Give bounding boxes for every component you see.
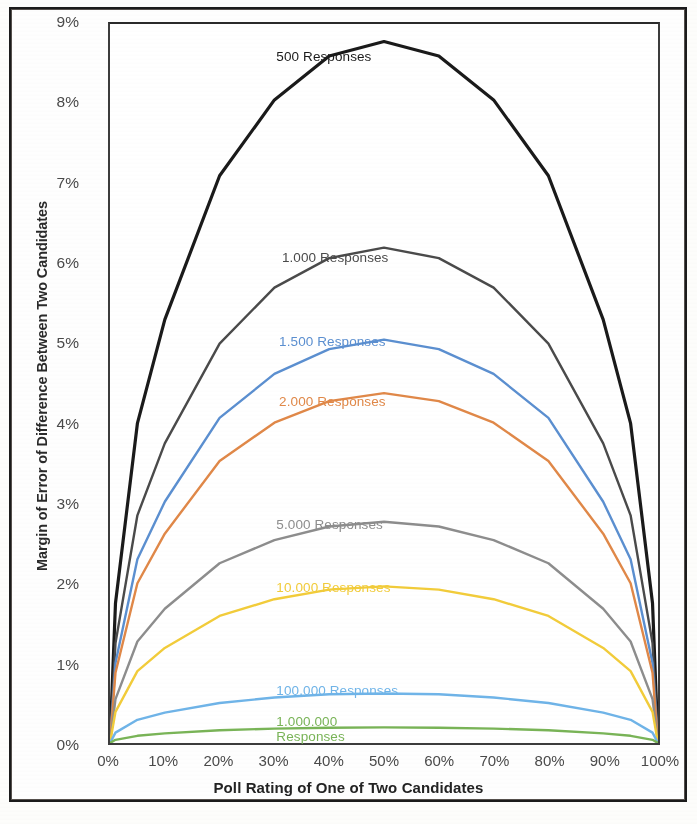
y-axis-tick-label: 1% [33, 656, 79, 674]
series-label: 10.000 Responses [276, 580, 390, 595]
x-axis-tick-label: 0% [80, 752, 136, 769]
series-label: 500 Responses [276, 49, 371, 64]
y-axis-tick-label: 0% [33, 736, 79, 754]
series-line [110, 727, 658, 743]
series-line [110, 248, 658, 743]
y-axis-tick-label: 9% [33, 13, 79, 31]
scanned-page: Margin of Error of Difference Between Tw… [0, 0, 697, 824]
x-axis-tick-label: 70% [466, 752, 522, 769]
x-axis-tick-label: 50% [356, 752, 412, 769]
series-lines [110, 24, 658, 743]
x-axis-title: Poll Rating of One of Two Candidates [0, 779, 697, 796]
y-axis-tick-label: 5% [33, 334, 79, 352]
series-line [110, 586, 658, 743]
series-label: 1.000 Responses [282, 250, 389, 265]
x-axis-tick-label: 100% [632, 752, 688, 769]
x-axis-tick-label: 80% [522, 752, 578, 769]
series-label: 100.000 Responses [276, 683, 398, 698]
series-label: 1.000.000Responses [276, 714, 344, 744]
series-label: 5.000 Responses [276, 517, 383, 532]
x-axis-tick-label: 10% [135, 752, 191, 769]
y-axis-tick-label: 6% [33, 254, 79, 272]
y-axis-tick-label: 2% [33, 575, 79, 593]
x-axis-tick-label: 90% [577, 752, 633, 769]
series-label: 1.500 Responses [279, 334, 386, 349]
x-axis-tick-label: 20% [190, 752, 246, 769]
x-axis-tick-label: 40% [301, 752, 357, 769]
x-axis-tick-label: 60% [411, 752, 467, 769]
series-label: 2.000 Responses [279, 394, 386, 409]
series-line [110, 693, 658, 743]
y-axis-tick-label: 4% [33, 415, 79, 433]
x-axis-tick-label: 30% [246, 752, 302, 769]
y-axis-tick-label: 3% [33, 495, 79, 513]
plot-area [108, 22, 660, 745]
y-axis-tick-label: 7% [33, 174, 79, 192]
y-axis-tick-label: 8% [33, 93, 79, 111]
